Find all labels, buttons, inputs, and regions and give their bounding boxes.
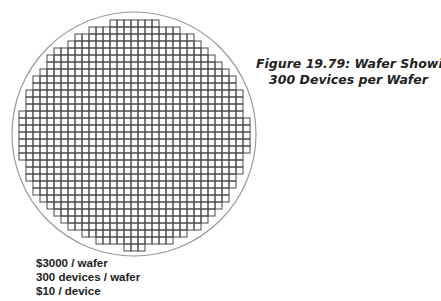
die-cell xyxy=(145,20,152,27)
die-cell xyxy=(194,153,201,160)
die-cell xyxy=(75,153,82,160)
die-cell xyxy=(110,55,117,62)
die-cell xyxy=(152,125,159,132)
die-cell xyxy=(103,69,110,76)
die-cell xyxy=(89,223,96,230)
die-cell xyxy=(82,167,89,174)
die-cell xyxy=(96,69,103,76)
die-cell xyxy=(145,132,152,139)
die-cell xyxy=(89,153,96,160)
die-cell xyxy=(68,111,75,118)
die-cell xyxy=(54,139,61,146)
die-cell xyxy=(145,97,152,104)
die-cell xyxy=(208,90,215,97)
die-cell xyxy=(96,237,103,244)
die-cell xyxy=(159,216,166,223)
die-cell xyxy=(61,195,68,202)
die-cell xyxy=(89,216,96,223)
die-cell xyxy=(229,83,236,90)
die-cell xyxy=(173,83,180,90)
die-cell xyxy=(159,167,166,174)
die-cell xyxy=(124,97,131,104)
devices-per-wafer: 300 devices / wafer xyxy=(36,270,140,284)
die-cell xyxy=(131,139,138,146)
die-cell xyxy=(19,111,26,118)
die-cell xyxy=(208,181,215,188)
die-cell xyxy=(82,55,89,62)
die-cell xyxy=(82,209,89,216)
die-cell xyxy=(68,90,75,97)
die-cell xyxy=(166,132,173,139)
die-cell xyxy=(222,111,229,118)
die-cell xyxy=(145,76,152,83)
die-cell xyxy=(82,160,89,167)
die-cell xyxy=(159,223,166,230)
cost-per-device: $10 / device xyxy=(36,284,140,298)
die-cell xyxy=(33,188,40,195)
die-cell xyxy=(152,62,159,69)
die-cell xyxy=(89,160,96,167)
die-cell xyxy=(173,167,180,174)
die-cell xyxy=(243,139,250,146)
die-cell xyxy=(138,195,145,202)
die-cell xyxy=(138,76,145,83)
die-cell xyxy=(33,146,40,153)
die-cell xyxy=(103,230,110,237)
die-cell xyxy=(103,139,110,146)
die-cell xyxy=(68,223,75,230)
die-cell xyxy=(89,188,96,195)
die-cell xyxy=(201,216,208,223)
die-cell xyxy=(201,125,208,132)
die-cell xyxy=(82,202,89,209)
die-cell xyxy=(159,62,166,69)
die-cell xyxy=(96,160,103,167)
die-cell xyxy=(222,188,229,195)
die-cell xyxy=(208,111,215,118)
die-cell xyxy=(40,97,47,104)
die-cell xyxy=(138,20,145,27)
die-cell xyxy=(208,188,215,195)
die-cell xyxy=(117,34,124,41)
die-cell xyxy=(61,62,68,69)
die-cell xyxy=(215,174,222,181)
die-cell xyxy=(131,146,138,153)
die-cell xyxy=(152,237,159,244)
die-cell xyxy=(75,216,82,223)
die-cell xyxy=(75,132,82,139)
die-cell xyxy=(166,223,173,230)
die-cell xyxy=(110,48,117,55)
die-cell xyxy=(61,111,68,118)
die-cell xyxy=(166,188,173,195)
die-cell xyxy=(159,139,166,146)
die-cell xyxy=(138,216,145,223)
die-cell xyxy=(159,153,166,160)
die-cell xyxy=(110,209,117,216)
die-cell xyxy=(124,48,131,55)
die-cell xyxy=(96,62,103,69)
die-cell xyxy=(194,104,201,111)
die-cell xyxy=(110,181,117,188)
die-cell xyxy=(54,55,61,62)
die-cell xyxy=(166,111,173,118)
die-cell xyxy=(40,69,47,76)
die-cell xyxy=(152,118,159,125)
die-cell xyxy=(145,55,152,62)
die-cell xyxy=(131,41,138,48)
die-cell xyxy=(222,90,229,97)
die-cell xyxy=(75,34,82,41)
die-cell xyxy=(103,188,110,195)
die-cell xyxy=(96,167,103,174)
die-cell xyxy=(208,160,215,167)
die-cell xyxy=(173,27,180,34)
die-cell xyxy=(110,160,117,167)
die-cell xyxy=(138,153,145,160)
die-cell xyxy=(166,139,173,146)
die-cell xyxy=(152,174,159,181)
die-cell xyxy=(236,125,243,132)
die-cell xyxy=(89,111,96,118)
die-cell xyxy=(33,181,40,188)
die-cell xyxy=(152,146,159,153)
die-cell xyxy=(131,34,138,41)
die-cell xyxy=(166,97,173,104)
die-cell xyxy=(33,174,40,181)
